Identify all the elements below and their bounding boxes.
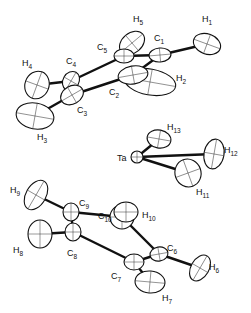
atom-ellipsoid-H8 (28, 220, 52, 248)
atom-ellipsoid-H4 (21, 68, 53, 103)
atom-label-H9: H9 (10, 185, 21, 197)
atom-label-C7: C7 (111, 271, 122, 283)
atom-ellipsoid-H3 (14, 100, 56, 132)
atom-label-H7: H7 (162, 293, 173, 305)
atom-label-H12: H12 (224, 145, 238, 157)
atom-label-H5: H5 (133, 14, 144, 26)
atom-ellipsoid-C7 (124, 254, 144, 270)
atom-label-H11: H11 (196, 187, 210, 199)
atom-label-C9: C9 (79, 198, 90, 210)
atom-label-C1: C1 (154, 33, 165, 45)
atom-ellipsoid-H9 (19, 176, 52, 214)
atom-ellipsoid-H12 (202, 137, 227, 170)
atom-label-C6: C6 (167, 243, 178, 255)
atom-ellipsoid-C1 (148, 47, 171, 63)
atom-ellipsoid-H7 (134, 270, 166, 295)
atom-label-H10: H10 (142, 210, 156, 222)
atom-label-C3: C3 (77, 105, 88, 117)
atom-label-H6: H6 (209, 262, 220, 274)
atom-label-H3: H3 (37, 132, 48, 144)
bond-C8-C7 (73, 232, 134, 262)
atom-label-H4: H4 (22, 58, 33, 70)
atom-label-C8: C8 (67, 248, 78, 260)
bond-Ta-H12 (137, 154, 214, 157)
atom-label-C2: C2 (109, 87, 120, 99)
atom-label-H2: H2 (176, 73, 187, 85)
atom-label-Ta: Ta (117, 153, 127, 163)
atom-label-C5: C5 (97, 42, 108, 54)
atom-label-H8: H8 (13, 245, 24, 257)
atom-label-C10: C10 (98, 211, 112, 223)
atom-label-C4: C4 (66, 56, 77, 68)
atom-ellipsoid-C9 (63, 203, 79, 221)
atom-ellipsoid-H11 (171, 155, 205, 190)
atom-ellipsoid-H1 (190, 30, 223, 58)
atom-label-H1: H1 (202, 14, 213, 26)
atom-ellipsoid-Ta (131, 151, 143, 163)
atom-ellipsoid-H10 (114, 202, 138, 222)
atom-ellipsoid-C8 (65, 223, 81, 241)
atom-ellipsoid-C5 (114, 49, 134, 63)
atom-label-H13: H13 (167, 122, 181, 134)
ortep-molecule-diagram: H1C1H5C5H2C2C4H4C3H3H13TaH12H11H9C9C10H1… (0, 0, 251, 313)
